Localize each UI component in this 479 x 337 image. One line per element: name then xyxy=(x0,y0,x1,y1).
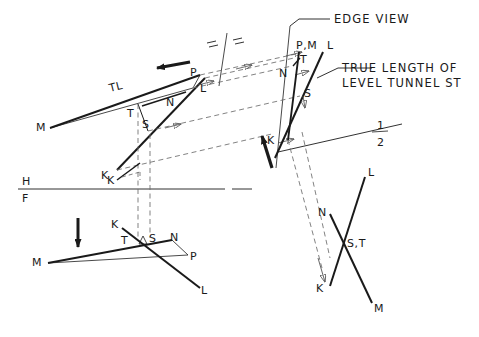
projection-lines-top-to-aux xyxy=(117,54,300,170)
top-view-geometry xyxy=(50,75,205,170)
fold-label-f: F xyxy=(22,192,28,205)
aux-view-label-s: S xyxy=(304,87,312,100)
front-view-label-t: T xyxy=(120,234,128,247)
aux-view-label-pm: P,M xyxy=(296,39,317,52)
projection-lines-to-aux2 xyxy=(288,132,330,268)
front-view-label-n: N xyxy=(170,231,179,244)
top-view-label-s: S xyxy=(142,118,150,131)
top-view-label-t: T xyxy=(126,107,134,120)
edge-view-leader xyxy=(290,19,330,26)
front-view-label-k: K xyxy=(111,218,119,231)
aux2-label-n: N xyxy=(318,206,327,219)
aux-view-label-t: T xyxy=(299,53,307,66)
top-view-label-m: M xyxy=(36,121,46,134)
sight-direction-arrow-top xyxy=(157,62,190,68)
fold-fraction-bar xyxy=(372,131,388,132)
fold-label-2: 2 xyxy=(377,136,384,149)
top-view-label-l: L xyxy=(200,82,207,95)
aux-view-label-k: K xyxy=(267,134,275,147)
aux-view-label-n: N xyxy=(279,67,288,80)
front-view-label-k-upper: K xyxy=(107,174,115,187)
front-view-label-l: L xyxy=(201,284,208,297)
aux2-label-k: K xyxy=(316,282,324,295)
drawing-sheet: H F 1 2 xyxy=(0,0,479,337)
true-length-mark-tl: TL xyxy=(107,79,125,95)
top-view-label-p: P xyxy=(190,66,197,79)
front-view-label-m: M xyxy=(32,256,42,269)
engineering-drawing-canvas: H F 1 2 xyxy=(0,0,479,337)
edge-view-label: EDGE VIEW xyxy=(334,12,410,26)
aux2-label-l: L xyxy=(368,166,375,179)
true-length-label-line1: TRUE LENGTH OF xyxy=(341,61,458,75)
aux2-label-m: M xyxy=(374,302,384,315)
top-view-label-n: N xyxy=(166,96,175,109)
fold-label-h: H xyxy=(22,175,30,188)
fold-label-1: 1 xyxy=(377,119,384,132)
front-view-label-s: S xyxy=(149,232,157,245)
aux-view-label-l: L xyxy=(327,39,334,52)
aux2-projector-arrow xyxy=(318,258,325,282)
aux2-label-st: S,T xyxy=(347,237,366,250)
true-length-label-line2: LEVEL TUNNEL ST xyxy=(342,76,462,90)
front-view-label-p: P xyxy=(190,250,197,263)
